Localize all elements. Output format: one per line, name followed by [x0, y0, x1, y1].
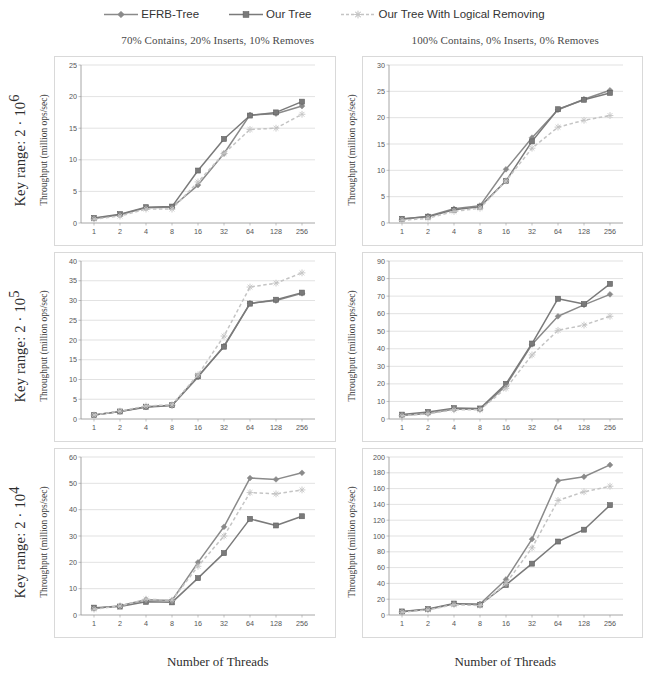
svg-text:2: 2 — [118, 619, 122, 628]
svg-text:256: 256 — [296, 423, 308, 432]
chart-panel-r3c2: 0204060801001201401601802001248163264128… — [362, 444, 649, 640]
chart-panel-r2c1: 05101520253035401248163264128256 — [54, 248, 342, 444]
y-axis-label: Throughput (million ops/sec) — [342, 248, 362, 444]
svg-text:40: 40 — [377, 344, 385, 353]
svg-text:0: 0 — [73, 415, 77, 424]
x-axis-title: Number of Threads — [74, 640, 362, 674]
svg-text:4: 4 — [144, 619, 148, 628]
subplot-column-title: 100% Contains, 0% Inserts, 0% Removes — [362, 26, 649, 52]
svg-text:64: 64 — [246, 619, 254, 628]
legend-marker-asterisk-icon — [341, 9, 375, 20]
chart-legend: EFRB-TreeOur TreeOur Tree With Logical R… — [0, 0, 649, 26]
svg-text:256: 256 — [296, 619, 308, 628]
y-axis-label-text: Throughput (million ops/sec) — [347, 486, 357, 597]
row-label-exponent: 5 — [6, 290, 22, 297]
legend-label: Our Tree — [266, 8, 311, 20]
svg-text:64: 64 — [554, 227, 562, 236]
svg-text:120: 120 — [373, 516, 385, 525]
panel-row: Key range: 2 · 105Throughput (million op… — [0, 248, 649, 444]
svg-text:60: 60 — [377, 309, 385, 318]
svg-text:0: 0 — [73, 219, 77, 228]
svg-text:1: 1 — [400, 619, 404, 628]
svg-text:60: 60 — [377, 563, 385, 572]
legend-entry[interactable]: Our Tree With Logical Removing — [341, 8, 544, 20]
svg-text:100: 100 — [373, 532, 385, 541]
svg-text:64: 64 — [246, 227, 254, 236]
legend-entry[interactable]: EFRB-Tree — [104, 8, 199, 20]
svg-text:200: 200 — [373, 453, 385, 462]
y-axis-label-text: Throughput (million ops/sec) — [347, 290, 357, 401]
svg-text:0: 0 — [381, 219, 385, 228]
chart-panel-r1c1: 05101520251248163264128256 — [54, 52, 342, 248]
row-label-key-range: Key range: 2 · 105 — [0, 248, 34, 444]
svg-text:128: 128 — [270, 619, 282, 628]
row-label-text: Key range: 2 · 10 — [11, 101, 27, 206]
svg-text:20: 20 — [69, 558, 77, 567]
svg-text:4: 4 — [144, 227, 148, 236]
svg-text:10: 10 — [69, 155, 77, 164]
y-axis-label-text: Throughput (million ops/sec) — [347, 94, 357, 205]
legend-label: EFRB-Tree — [141, 8, 199, 20]
subplot-column-title: 70% Contains, 20% Inserts, 10% Removes — [74, 26, 362, 52]
svg-text:30: 30 — [377, 61, 385, 70]
svg-text:40: 40 — [69, 257, 77, 266]
y-axis-label: Throughput (million ops/sec) — [342, 444, 362, 640]
svg-text:15: 15 — [69, 124, 77, 133]
y-axis-label: Throughput (million ops/sec) — [34, 444, 54, 640]
svg-text:128: 128 — [578, 423, 590, 432]
row-label-key-range: Key range: 2 · 104 — [0, 444, 34, 640]
svg-text:15: 15 — [69, 355, 77, 364]
svg-text:10: 10 — [377, 166, 385, 175]
svg-text:256: 256 — [604, 423, 616, 432]
svg-text:10: 10 — [69, 375, 77, 384]
svg-text:8: 8 — [478, 227, 482, 236]
svg-text:2: 2 — [426, 619, 430, 628]
svg-text:16: 16 — [194, 423, 202, 432]
svg-text:64: 64 — [246, 423, 254, 432]
svg-text:16: 16 — [194, 619, 202, 628]
svg-text:128: 128 — [578, 619, 590, 628]
x-axis-title: Number of Threads — [362, 640, 649, 674]
svg-text:32: 32 — [220, 423, 228, 432]
plot-area: 01020304050607080901248163264128256 — [362, 252, 644, 442]
svg-text:8: 8 — [170, 227, 174, 236]
svg-text:0: 0 — [381, 611, 385, 620]
legend-entry[interactable]: Our Tree — [229, 8, 311, 20]
plot-area: 01020304050601248163264128256 — [54, 448, 336, 638]
svg-text:4: 4 — [452, 423, 456, 432]
svg-text:64: 64 — [554, 619, 562, 628]
svg-text:16: 16 — [502, 227, 510, 236]
plot-area: 05101520253035401248163264128256 — [54, 252, 336, 442]
svg-text:25: 25 — [69, 61, 77, 70]
svg-text:80: 80 — [377, 274, 385, 283]
svg-text:70: 70 — [377, 292, 385, 301]
row-label-text: Key range: 2 · 10 — [11, 493, 27, 598]
svg-text:50: 50 — [69, 479, 77, 488]
svg-text:128: 128 — [578, 227, 590, 236]
svg-text:0: 0 — [381, 415, 385, 424]
svg-text:1: 1 — [400, 227, 404, 236]
svg-text:35: 35 — [69, 276, 77, 285]
svg-text:10: 10 — [69, 584, 77, 593]
svg-text:8: 8 — [478, 423, 482, 432]
svg-text:180: 180 — [373, 468, 385, 477]
plot-area: 0510152025301248163264128256 — [362, 56, 644, 246]
svg-text:5: 5 — [73, 187, 77, 196]
svg-text:30: 30 — [69, 296, 77, 305]
svg-text:2: 2 — [426, 423, 430, 432]
y-axis-label: Throughput (million ops/sec) — [34, 248, 54, 444]
svg-text:1: 1 — [92, 423, 96, 432]
row-label-text: Key range: 2 · 10 — [11, 297, 27, 402]
row-label-key-range: Key range: 2 · 106 — [0, 52, 34, 248]
svg-text:90: 90 — [377, 257, 385, 266]
svg-text:20: 20 — [69, 336, 77, 345]
plot-area: 0204060801001201401601802001248163264128… — [362, 448, 644, 638]
svg-text:4: 4 — [452, 227, 456, 236]
svg-text:15: 15 — [377, 140, 385, 149]
svg-text:256: 256 — [604, 227, 616, 236]
legend-marker-square-icon — [229, 9, 263, 20]
svg-text:160: 160 — [373, 484, 385, 493]
svg-text:8: 8 — [478, 619, 482, 628]
svg-text:8: 8 — [170, 619, 174, 628]
svg-text:256: 256 — [296, 227, 308, 236]
